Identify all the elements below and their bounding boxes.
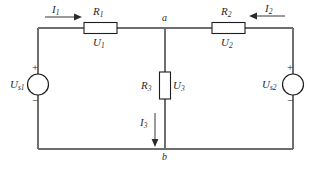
- voltage-source-us2-label: Us2: [262, 79, 277, 91]
- resistor-r1-label: R1: [93, 6, 103, 18]
- current-i3-label: I3: [140, 117, 147, 129]
- current-i1-label: I1: [52, 4, 59, 16]
- resistor-r3-body: [160, 72, 171, 99]
- current-arrow-i1: [45, 14, 82, 21]
- voltage-source-us2-minus-sign: −: [287, 95, 293, 106]
- voltage-source-us2-symbol: [283, 74, 304, 95]
- resistor-r2-body: [212, 23, 245, 34]
- node-b-label: b: [162, 152, 167, 162]
- resistor-r3-label: R3: [141, 80, 151, 92]
- resistor-r2-voltage-label: U2: [221, 37, 233, 49]
- resistor-r3-voltage-label: U3: [173, 80, 185, 92]
- current-arrow-i3: [152, 113, 159, 147]
- resistor-r1-body: [84, 23, 117, 34]
- circuit-diagram: R1 U1 R2 U2 R3 U3 Us1 + − Us2 + − I1 I2 …: [0, 0, 310, 172]
- voltage-source-us2-plus-sign: +: [287, 62, 293, 73]
- voltage-source-us1-label: Us1: [10, 79, 25, 91]
- node-a-label: a: [162, 13, 167, 23]
- voltage-source-us1-minus-sign: −: [32, 95, 38, 106]
- resistor-r1-voltage-label: U1: [93, 37, 105, 49]
- resistor-r2-label: R2: [221, 6, 231, 18]
- current-i2-label: I2: [265, 3, 272, 15]
- voltage-source-us1-symbol: [28, 74, 49, 95]
- voltage-source-us1-plus-sign: +: [32, 62, 38, 73]
